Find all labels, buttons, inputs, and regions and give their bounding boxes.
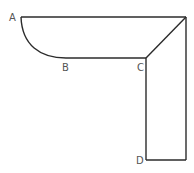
edge-c-top-right [146,17,186,58]
point-label-b: B [62,62,69,73]
geometry-diagram: A B C D [0,0,194,173]
point-label-d: D [136,155,144,166]
point-label-a: A [9,12,16,23]
curve-a-b [21,17,66,58]
point-label-c: C [137,62,144,73]
